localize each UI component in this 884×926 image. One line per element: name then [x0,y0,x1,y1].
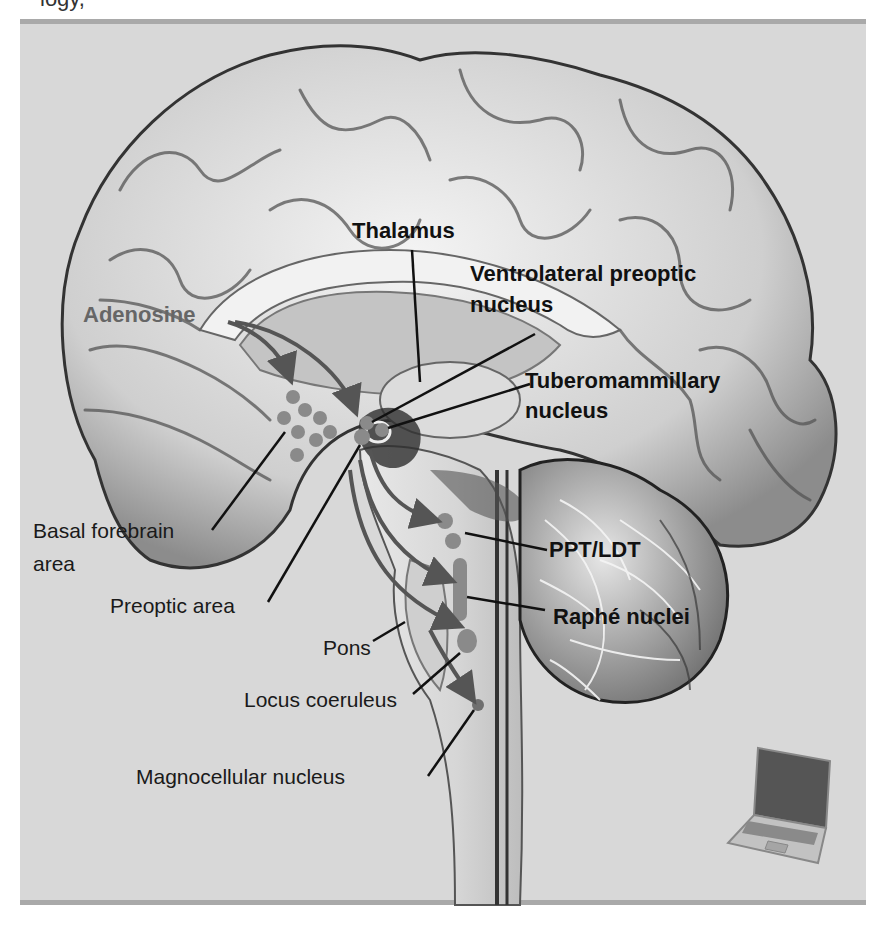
label-pons: Pons [323,637,371,659]
label-thalamus: Thalamus [352,219,455,242]
laptop-icon [728,748,830,863]
label-basal-forebrain-line1: Basal forebrain [33,520,174,542]
brain-illustration [0,0,884,926]
label-raphe-nuclei: Raphé nuclei [553,605,690,628]
label-preoptic-area: Preoptic area [110,595,235,617]
label-adenosine: Adenosine [83,303,195,326]
label-vlpo-line1: Ventrolateral preoptic [470,262,696,285]
label-magnocellular-nucleus: Magnocellular nucleus [136,766,345,788]
label-vlpo-line2: nucleus [470,293,553,316]
label-locus-coeruleus: Locus coeruleus [244,689,397,711]
label-basal-forebrain-line2: area [33,553,75,575]
label-ppt-ldt: PPT/LDT [549,538,641,561]
label-tmn-line2: nucleus [525,399,608,422]
label-tmn-line1: Tuberomammillary [525,369,720,392]
